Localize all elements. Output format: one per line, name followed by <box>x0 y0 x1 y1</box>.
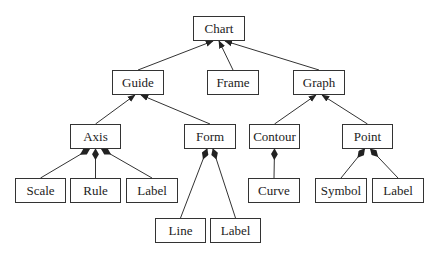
node-point: Point <box>342 124 393 149</box>
node-scale: Scale <box>15 178 66 203</box>
node-form: Form <box>184 124 236 149</box>
edge-frame-to-chart <box>219 41 233 70</box>
edge-contour-to-graph <box>275 95 317 124</box>
node-frame: Frame <box>207 70 259 95</box>
node-point-label: Label <box>372 178 424 203</box>
edge-graph-to-chart <box>225 41 319 70</box>
edge-line-to-form <box>181 149 208 218</box>
node-rule: Rule <box>70 178 121 203</box>
edge-guide-to-chart <box>138 41 213 70</box>
edge-axis-to-guide <box>96 95 136 124</box>
node-graph: Graph <box>293 70 345 95</box>
edge-point-label-to-point <box>371 149 399 178</box>
node-form-label: Label <box>210 218 261 243</box>
node-guide: Guide <box>112 70 164 95</box>
edge-axis-label-to-axis <box>102 149 153 178</box>
edge-scale-to-axis <box>41 149 90 178</box>
edge-point-to-graph <box>322 95 368 124</box>
node-contour: Contour <box>249 124 300 149</box>
node-symbol: Symbol <box>315 178 367 203</box>
edge-symbol-to-point <box>341 149 365 178</box>
edge-form-to-guide <box>141 95 210 124</box>
node-axis-label: Label <box>126 178 178 203</box>
node-line: Line <box>155 218 206 243</box>
edge-curve-to-contour <box>274 149 275 178</box>
node-chart: Chart <box>193 16 245 41</box>
edge-form-label-to-form <box>213 149 236 218</box>
node-axis: Axis <box>70 124 121 149</box>
node-curve: Curve <box>248 178 300 203</box>
